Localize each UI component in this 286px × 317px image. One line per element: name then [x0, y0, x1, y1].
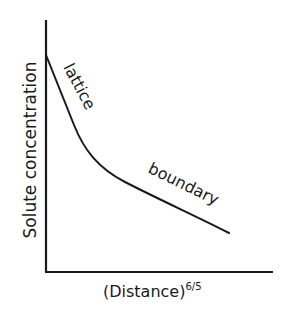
y-axis-label: Solute concentration	[20, 62, 40, 239]
concentration-profile-diagram: Solute concentration (Distance)6/5 latti…	[0, 0, 286, 317]
boundary-label: boundary	[145, 159, 222, 209]
x-axis-label-base: (Distance)	[103, 282, 185, 301]
x-axis-label-exponent: 6/5	[185, 281, 201, 292]
x-axis-label: (Distance)6/5	[103, 281, 202, 301]
